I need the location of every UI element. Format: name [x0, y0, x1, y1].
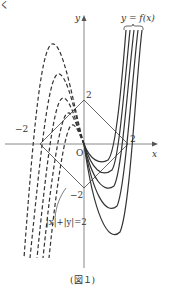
origin-label: O — [76, 148, 83, 158]
corner-mark: く — [0, 0, 9, 10]
graph-canvas: く y = f(x) y x O 2 2 −2 −2 |x|+|y|=2 — [0, 0, 169, 293]
tick-y-neg: −2 — [70, 190, 83, 200]
tick-x-neg: −2 — [15, 124, 28, 134]
figure-caption: (図１) — [70, 275, 95, 285]
tick-x-pos: 2 — [130, 134, 136, 144]
y-axis-label: y — [74, 13, 81, 23]
region-label: |x|+|y|=2 — [46, 217, 87, 228]
tick-y-pos: 2 — [86, 90, 92, 100]
curve-family-brace — [124, 24, 143, 30]
curve-family-label: y = f(x) — [120, 13, 155, 23]
x-axis-label: x — [152, 149, 157, 159]
solid-curve-family — [84, 30, 142, 235]
